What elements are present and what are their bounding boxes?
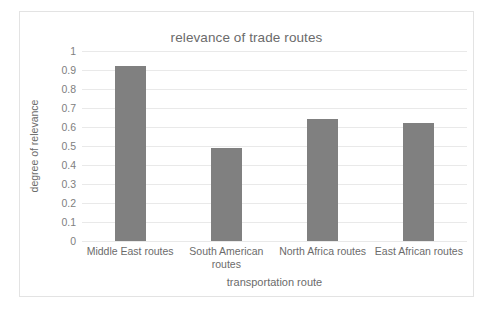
y-axis-tick-label: 0.5 bbox=[61, 140, 76, 152]
chart-title: relevance of trade routes bbox=[20, 30, 473, 45]
y-axis-title: degree of relevance bbox=[28, 100, 40, 193]
bar[interactable] bbox=[211, 148, 242, 241]
y-axis-tick-label: 0.1 bbox=[61, 216, 76, 228]
x-axis-tick-label: South American routes bbox=[178, 245, 274, 271]
y-axis-tick-label: 0 bbox=[70, 235, 76, 247]
bar[interactable] bbox=[115, 66, 146, 241]
y-axis-tick-label: 0.7 bbox=[61, 102, 76, 114]
chart-container: relevance of trade routes degree of rele… bbox=[19, 11, 474, 297]
y-axis-tick-label: 0.2 bbox=[61, 197, 76, 209]
x-axis-tick-label: North Africa routes bbox=[275, 245, 371, 258]
y-axis-title-container: degree of relevance bbox=[24, 51, 44, 241]
y-axis-tick-label: 0.3 bbox=[61, 178, 76, 190]
bar[interactable] bbox=[307, 119, 338, 241]
x-axis-title: transportation route bbox=[82, 276, 467, 288]
x-axis-tick-labels: Middle East routesSouth American routesN… bbox=[82, 245, 467, 279]
y-axis-tick-label: 0.8 bbox=[61, 83, 76, 95]
y-axis-tick-label: 1 bbox=[70, 45, 76, 57]
y-axis-tick-label: 0.4 bbox=[61, 159, 76, 171]
plot-area: 10.90.80.70.60.50.40.30.20.10 bbox=[82, 51, 467, 241]
bar[interactable] bbox=[403, 123, 434, 241]
gridline bbox=[82, 241, 467, 242]
y-axis-tick-label: 0.9 bbox=[61, 64, 76, 76]
y-axis-tick-label: 0.6 bbox=[61, 121, 76, 133]
gridline bbox=[82, 51, 467, 52]
x-axis-tick-label: Middle East routes bbox=[82, 245, 178, 258]
x-axis-tick-label: East African routes bbox=[371, 245, 467, 258]
